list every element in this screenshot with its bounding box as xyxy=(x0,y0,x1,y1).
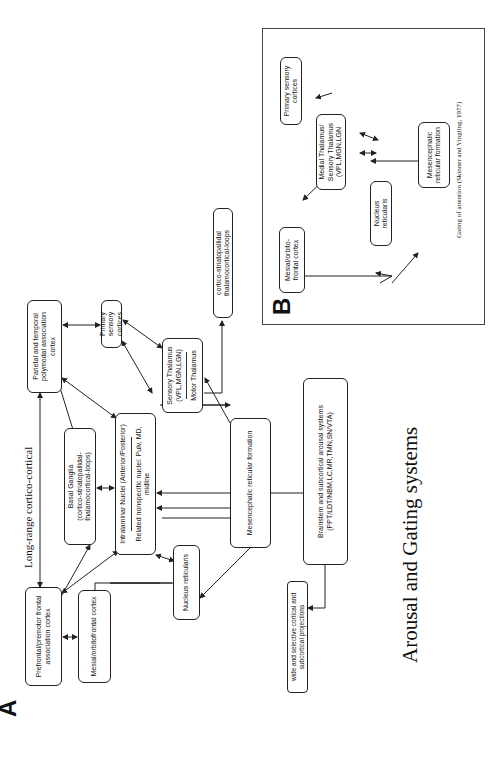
b-mesial-orbitofrontal-box: Mesial/orbito-frontal cortex xyxy=(279,227,305,293)
projections-label: wide and selective cortical and subcorti… xyxy=(290,585,306,689)
b-medial-thalamus-label: Medial Thalamus/ Sensory Thalamus (VPL,M… xyxy=(318,118,343,186)
motor-thalamus-label: Motor Thalamus xyxy=(190,350,198,400)
cortico-striatopallidal-box: cortico-striatopallidal thalamocortical-… xyxy=(213,208,233,318)
sensory-thalamus-box: Sensory Thalamus (VPL,MGN,LGN) Motor Tha… xyxy=(162,338,203,413)
cortico-striatopallidal-label: cortico-striatopallidal thalamocortical-… xyxy=(215,212,232,314)
b-mesial-orbitofrontal-label: Mesial/orbito-frontal cortex xyxy=(284,231,301,289)
mesial-orbitofrontal-box: Mesial/orbitofrontal cortex xyxy=(78,590,111,683)
divider xyxy=(186,352,187,399)
primary-sensory-label: Primary sensory cortices xyxy=(99,304,124,344)
b-nucleus-reticularis-box: Nucleus reticularis xyxy=(370,181,392,246)
mesial-orbitofrontal-label: Mesial/orbitofrontal cortex xyxy=(90,596,98,676)
b-medial-thalamus-box: Medial Thalamus/ Sensory Thalamus (VPL,M… xyxy=(316,114,346,190)
brainstem-title: Brainstem and subcortical arousal system… xyxy=(317,405,325,538)
divider xyxy=(131,437,132,531)
b-caption: Gating of attention (Skinner and Yinglin… xyxy=(455,102,463,238)
intralaminar-box: Intralaminar Nuclei (Anterior/Posterior)… xyxy=(115,413,156,555)
panel-b-letter: B xyxy=(268,298,296,315)
figure-title: Arousal and Gating systems xyxy=(398,427,423,663)
figure-canvas: A Long-range cortico-cortical Prefrontal… xyxy=(0,0,497,773)
b-primary-sensory-label: Primary sensory cortices xyxy=(283,61,300,121)
projections-box: wide and selective cortical and subcorti… xyxy=(287,581,308,693)
long-range-label: Long-range cortico-cortical xyxy=(22,447,34,568)
intralaminar-title: Intralaminar Nuclei (Anterior/Posterior) xyxy=(119,424,127,543)
prefrontal-box: Prefrontal/premotor frontal association … xyxy=(25,587,62,686)
nucleus-reticularis-label: Nucleus reticularis xyxy=(182,554,190,611)
mesencephalic-rf-box: Mesencephalic reticular formation xyxy=(230,418,271,548)
basal-ganglia-subtitle: (cortico-striatopallidal-thalamocortical… xyxy=(76,432,93,541)
primary-sensory-box: Primary sensory cortices xyxy=(101,300,122,348)
parietal-temporal-box: Parietal and temporal polymodal associat… xyxy=(27,300,62,393)
nucleus-reticularis-box: Nucleus reticularis xyxy=(173,545,200,620)
intralaminar-related: Related nonspecific nuclei: Pulv, MD, mi… xyxy=(135,417,152,551)
b-nucleus-reticularis-label: Nucleus reticularis xyxy=(373,185,390,242)
prefrontal-label: Prefrontal/premotor frontal association … xyxy=(35,591,52,682)
b-mesencephalic-rf-box: Mesencephalic reticular formation xyxy=(418,122,450,188)
b-mesencephalic-rf-label: Mesencephalic reticular formation xyxy=(426,126,443,184)
brainstem-systems: (PPT/LDT/NBM,LC,MR,TMN,SN/VTA) xyxy=(326,412,334,530)
brainstem-box: Brainstem and subcortical arousal system… xyxy=(303,378,348,565)
b-primary-sensory-box: Primary sensory cortices xyxy=(280,57,302,125)
sensory-thalamus-label: Sensory Thalamus (VPL,MGN,LGN) xyxy=(166,342,183,409)
parietal-temporal-label: Parietal and temporal polymodal associat… xyxy=(32,304,57,389)
basal-ganglia-title: Basal Ganglia xyxy=(67,465,75,509)
mesencephalic-rf-label: Mesencephalic reticular formation xyxy=(246,431,254,536)
basal-ganglia-box: Basal Ganglia (cortico-striatopallidal-t… xyxy=(64,428,96,545)
panel-a-letter: A xyxy=(0,700,22,717)
